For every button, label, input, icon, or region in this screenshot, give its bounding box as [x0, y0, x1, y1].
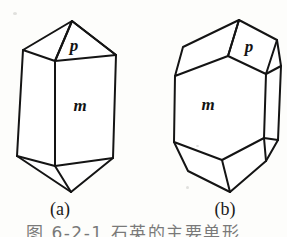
- crystal-a-label-m: m: [73, 96, 86, 115]
- crystal-b-label-m: m: [201, 95, 214, 114]
- scan-speck: [186, 186, 189, 189]
- crystal-b: p m: [174, 20, 281, 192]
- crystal-drawing-canvas: p m: [0, 0, 287, 237]
- scan-speck: [196, 145, 199, 147]
- panel-caption-a: (a): [50, 199, 70, 220]
- crystal-a-label-p: p: [68, 36, 79, 55]
- crystal-figure: p m: [0, 0, 287, 237]
- scan-speck: [13, 12, 17, 15]
- figure-caption-clip: 图 6-2-1 石英的主要单形: [0, 224, 287, 237]
- crystal-b-left-prism-edge: [174, 76, 175, 142]
- crystal-a: p m: [17, 21, 116, 192]
- crystal-b-label-p: p: [243, 37, 254, 56]
- figure-caption-text: 图 6-2-1 石英的主要单形: [26, 224, 240, 237]
- panel-caption-b: (b): [215, 199, 236, 220]
